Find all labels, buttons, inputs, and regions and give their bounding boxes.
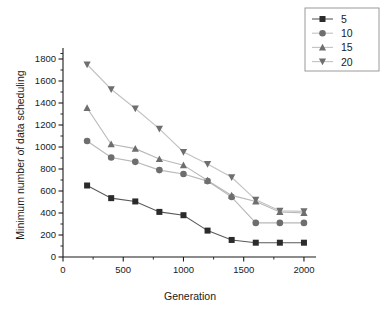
data-point-marker <box>301 240 307 246</box>
y-tick-label: 0 <box>51 251 56 262</box>
data-point-marker <box>319 30 326 37</box>
y-tick-label: 600 <box>40 185 56 196</box>
data-point-marker <box>277 240 283 246</box>
y-axis-title: Minimum number of data scheduling <box>14 70 26 239</box>
y-tick-label: 200 <box>40 229 56 240</box>
y-tick-label: 1400 <box>35 97 56 108</box>
data-point-marker <box>301 220 308 227</box>
x-tick-label: 0 <box>60 264 65 275</box>
y-tick-label: 1200 <box>35 119 56 130</box>
x-axis-title: Generation <box>164 290 216 302</box>
x-tick-label: 2000 <box>293 264 314 275</box>
data-point-marker <box>84 183 90 189</box>
y-tick-label: 1600 <box>35 75 56 86</box>
legend-label: 15 <box>341 41 353 53</box>
y-tick-label: 1800 <box>35 53 56 64</box>
data-point-marker <box>180 212 186 218</box>
data-point-marker <box>180 171 187 178</box>
data-point-marker <box>253 240 259 246</box>
data-point-marker <box>156 167 163 174</box>
x-tick-label: 1500 <box>233 264 254 275</box>
data-point-marker <box>132 198 138 204</box>
y-tick-label: 400 <box>40 207 56 218</box>
y-tick-label: 1000 <box>35 141 56 152</box>
data-point-marker <box>205 228 211 234</box>
legend-label: 20 <box>341 56 353 68</box>
line-chart: 020040060080010001200140016001800 050010… <box>0 0 387 313</box>
data-point-marker <box>108 154 115 161</box>
data-point-marker <box>320 16 326 22</box>
data-point-marker <box>277 220 284 227</box>
legend-label: 5 <box>341 13 347 25</box>
data-point-marker <box>108 195 114 201</box>
data-point-marker <box>156 209 162 215</box>
x-tick-label: 1000 <box>173 264 194 275</box>
y-tick-label: 800 <box>40 163 56 174</box>
chart-figure: 020040060080010001200140016001800 050010… <box>0 0 387 313</box>
data-point-marker <box>132 159 139 166</box>
chart-legend[interactable]: 5101520 <box>305 8 379 71</box>
data-point-marker <box>252 220 259 227</box>
data-point-marker <box>84 138 91 145</box>
data-point-marker <box>229 237 235 243</box>
legend-label: 10 <box>341 27 353 39</box>
x-tick-label: 500 <box>115 264 131 275</box>
